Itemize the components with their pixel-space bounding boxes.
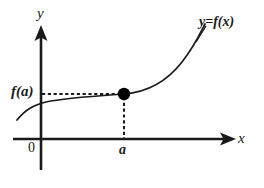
origin-label: 0 (28, 141, 35, 155)
y-axis-label: y (37, 6, 44, 21)
curve-equation-label: y=f(x) (199, 15, 234, 29)
y-value-label-fa: f(a) (11, 84, 34, 99)
x-axis-label: x (238, 131, 245, 146)
function-graph-figure: y x 0 a f(a) y=f(x) (0, 0, 264, 188)
x-value-label-a: a (119, 143, 126, 157)
marked-point-dot (118, 88, 130, 100)
